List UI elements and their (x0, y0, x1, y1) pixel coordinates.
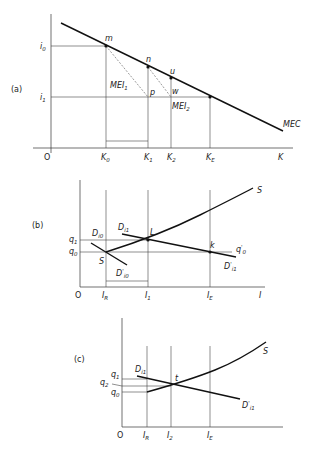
q2-pointer (112, 384, 122, 386)
label-di0: Di0 (92, 229, 104, 239)
label-di1-prime-c: D'i1 (242, 400, 255, 411)
investment-diagram: (a) i0 i1 m n u p w MEI1 MEI2 MEC O K0 K… (0, 0, 312, 449)
panel-c-origin: O (117, 431, 123, 440)
label-u: u (170, 67, 175, 76)
label-supply: S (257, 186, 262, 195)
label-ir-c: IR (143, 431, 149, 441)
panel-c-tag: (c) (74, 355, 85, 364)
label-ie: IE (207, 291, 213, 301)
label-i1: I1 (145, 291, 151, 301)
label-w: w (172, 87, 179, 96)
label-mei1: MEI1 (110, 81, 128, 91)
label-p: p (149, 88, 155, 97)
label-ir: IR (102, 291, 108, 301)
label-mec: MEC (283, 120, 301, 129)
label-s-point: S (99, 257, 104, 266)
point-ke-mec (208, 95, 211, 98)
label-ie-c: IE (207, 431, 213, 441)
label-supply-c: S (263, 347, 268, 356)
label-q0-c: q0 (111, 388, 120, 398)
label-q0-prime: q'0 (236, 244, 247, 255)
label-n: n (146, 55, 151, 64)
supply-curve-c (147, 342, 266, 392)
label-i-axis: I (259, 291, 262, 300)
label-q1: q1 (69, 235, 78, 245)
point-l (146, 238, 149, 241)
label-t: t (175, 374, 179, 383)
label-q1-c: q1 (111, 370, 120, 380)
label-q2: q2 (100, 378, 109, 388)
panel-c: (c) q1 q2 q0 Di1 D'i1 t S O IR I2 IE (74, 318, 283, 441)
label-i0: i0 (40, 42, 46, 52)
label-di0-prime: D'i0 (116, 268, 129, 279)
label-k-axis: K (278, 153, 284, 162)
label-mei2: MEI2 (172, 102, 190, 112)
label-i2: I2 (167, 431, 173, 441)
label-di1-c: Di1 (135, 365, 146, 375)
label-k1: K1 (144, 153, 153, 163)
label-k-point: k (210, 241, 215, 250)
label-k0: K0 (101, 153, 110, 163)
point-u (169, 76, 172, 79)
panel-b-origin: O (75, 291, 81, 300)
demand-di1 (122, 234, 236, 257)
label-i1: i1 (40, 93, 46, 103)
supply-curve (106, 188, 253, 252)
point-n (146, 65, 149, 68)
panel-b: (b) q1 q0 Di0 Di1 D'i0 D'i1 q'0 S L k S … (32, 180, 265, 301)
label-l: L (150, 228, 154, 237)
panel-a: (a) i0 i1 m n u p w MEI1 MEI2 MEC O K0 K… (11, 14, 301, 163)
panel-a-origin: O (44, 153, 50, 162)
label-m: m (105, 34, 113, 43)
panel-a-tag: (a) (11, 85, 22, 94)
panel-b-tag: (b) (32, 221, 43, 230)
label-q0: q0 (69, 247, 78, 257)
point-k (208, 250, 211, 253)
point-m (104, 44, 107, 47)
label-k2: K2 (167, 153, 176, 163)
label-ke: KE (206, 153, 215, 163)
label-di1-prime: D'i1 (224, 261, 237, 272)
label-di1: Di1 (118, 223, 129, 233)
